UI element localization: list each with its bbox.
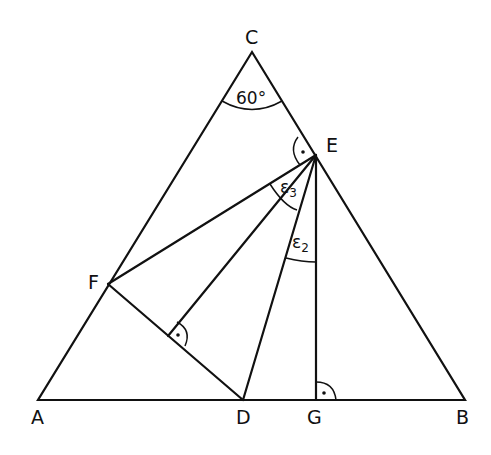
point-label-b: B xyxy=(456,406,469,428)
point-label-e: E xyxy=(326,134,338,156)
right-angle-dot-fd xyxy=(176,333,180,337)
right-angle-arc-g xyxy=(316,382,336,400)
right-angle-dot-g xyxy=(322,391,326,395)
segment-ef xyxy=(108,155,316,284)
right-angle-dot-e xyxy=(301,150,305,154)
geometry-diagram: 60° ε3 ε2 A B C D E F G xyxy=(0,0,491,455)
angle-arc-eps2 xyxy=(286,258,316,262)
right-angle-arc-e xyxy=(293,137,300,165)
segment-fd xyxy=(108,284,243,400)
angle-eps2-label: ε2 xyxy=(292,232,309,255)
point-label-g: G xyxy=(307,406,322,428)
angle-c-label: 60° xyxy=(236,88,266,108)
point-label-f: F xyxy=(88,271,99,293)
point-label-c: C xyxy=(245,26,258,48)
point-label-d: D xyxy=(236,406,251,428)
point-label-a: A xyxy=(31,406,44,428)
